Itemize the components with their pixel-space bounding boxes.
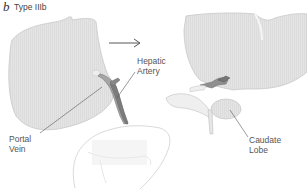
panel-letter: b [3, 0, 10, 14]
caudate-lobe-shape [211, 99, 241, 119]
hepatic-artery-label: Hepatic Artery [137, 56, 166, 76]
hepatic-artery-label-line1: Hepatic [137, 56, 166, 66]
transition-arrow-icon [109, 39, 140, 47]
portal-vein-label-line1: Portal [9, 134, 31, 144]
panel-title: Type IIIb [14, 1, 47, 13]
right-liver-shape [184, 13, 307, 90]
hepatic-artery-leader [117, 72, 135, 98]
caudate-lobe-label-line1: Caudate [249, 135, 281, 145]
gallbladder-shape [166, 94, 212, 118]
illustration [0, 0, 307, 189]
caudate-lobe-label: Caudate Lobe [249, 135, 281, 155]
bile-duct [208, 110, 213, 134]
portal-vein-label: Portal Vein [9, 134, 31, 154]
caudate-lobe-label-line2: Lobe [249, 145, 281, 155]
hepatic-artery-label-line2: Artery [137, 66, 166, 76]
portal-vein-label-line2: Vein [9, 144, 31, 154]
liver-anatomy-figure: b Type IIIb Hepatic Artery Portal Vein C… [0, 0, 307, 189]
left-artery-vessel [110, 82, 128, 124]
